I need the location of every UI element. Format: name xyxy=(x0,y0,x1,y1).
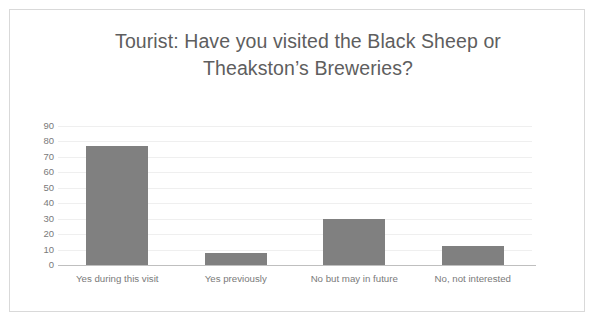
bar-slot xyxy=(323,126,385,265)
y-tick-label: 90 xyxy=(28,121,54,131)
y-tick-label: 50 xyxy=(28,183,54,193)
bar-slot xyxy=(86,126,148,265)
bar xyxy=(323,219,385,265)
x-axis-label: Yes during this visit xyxy=(58,272,177,285)
x-axis-label: No, not interested xyxy=(414,272,533,285)
bar xyxy=(205,253,267,265)
bar xyxy=(86,146,148,265)
x-axis-line xyxy=(58,265,536,266)
bar-slot xyxy=(442,126,504,265)
chart-screenshot: Tourist: Have you visited the Black Shee… xyxy=(0,0,595,322)
bar-series xyxy=(58,126,532,265)
y-tick-label: 60 xyxy=(28,167,54,177)
bar-slot xyxy=(205,126,267,265)
y-tick-label: 80 xyxy=(28,136,54,146)
y-tick-label: 10 xyxy=(28,245,54,255)
bar xyxy=(442,246,504,265)
y-tick-label: 40 xyxy=(28,198,54,208)
x-axis-category-labels: Yes during this visitYes previouslyNo bu… xyxy=(58,272,532,288)
plot-wrapper: 9080706050403020100 Yes during this visi… xyxy=(0,0,595,322)
y-tick-label: 70 xyxy=(28,152,54,162)
x-axis-label: No but may in future xyxy=(295,272,414,285)
y-tick-label: 30 xyxy=(28,214,54,224)
y-tick-label: 20 xyxy=(28,229,54,239)
x-axis-label: Yes previously xyxy=(177,272,296,285)
y-tick-label: 0 xyxy=(28,260,54,270)
y-axis-tick-labels: 9080706050403020100 xyxy=(28,121,54,266)
